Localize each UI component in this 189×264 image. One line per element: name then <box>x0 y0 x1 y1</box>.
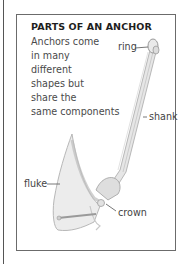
label-ring: ring <box>118 41 137 52</box>
label-shank: shank <box>149 111 178 122</box>
ring-drawing <box>148 39 159 54</box>
crown-drawing <box>96 178 120 207</box>
label-crown: crown <box>118 207 147 218</box>
label-fluke: fluke <box>24 178 47 189</box>
anchor-illustration <box>0 0 189 264</box>
